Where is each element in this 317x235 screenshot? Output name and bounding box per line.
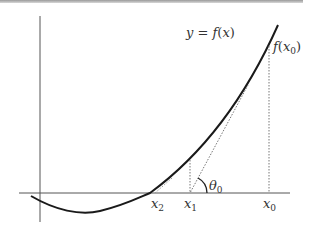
function-curve (31, 25, 278, 213)
theta0-label: θ0 (209, 178, 223, 195)
tangent-line-x1 (155, 178, 172, 193)
tangent-line-x0 (190, 85, 248, 193)
angle-arc (198, 178, 207, 193)
curve-label: y = f(x) (185, 25, 235, 40)
x2-label: x2 (151, 196, 164, 213)
x0-label: x0 (263, 196, 276, 213)
x1-label: x1 (184, 196, 197, 213)
f-x0-label: f(x0) (272, 39, 301, 56)
newton-method-diagram: y = f(x) f(x0) θ0 x2 x1 x0 (0, 0, 317, 235)
